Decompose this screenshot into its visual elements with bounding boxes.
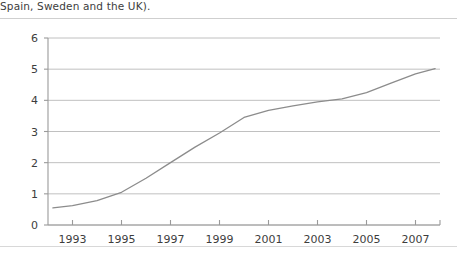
data-series-line <box>53 69 435 208</box>
y-axis-tick-label: 5 <box>31 63 38 76</box>
top-divider-rule <box>0 18 457 19</box>
x-axis-tick-label: 1995 <box>108 233 136 246</box>
x-axis-tick-label: 2005 <box>353 233 381 246</box>
line-chart: 0123456 19931995199719992001200320052007 <box>0 20 457 246</box>
y-axis-tick-label: 3 <box>31 126 38 139</box>
x-axis-tick-label: 1993 <box>59 233 87 246</box>
x-axis-tick-label: 2003 <box>304 233 332 246</box>
y-axis-tick-label: 1 <box>31 188 38 201</box>
x-axis <box>48 220 440 225</box>
y-axis-tick-label: 6 <box>31 32 38 45</box>
x-axis-tick-label: 1999 <box>206 233 234 246</box>
y-axis-tick-labels: 0123456 <box>31 32 38 232</box>
x-axis-tick-labels: 19931995199719992001200320052007 <box>59 233 430 246</box>
y-axis-tick-label: 4 <box>31 94 38 107</box>
chart-svg: 0123456 19931995199719992001200320052007 <box>0 20 457 246</box>
series-line <box>53 69 435 208</box>
x-axis-tick-label: 2007 <box>402 233 430 246</box>
x-axis-tick-label: 1997 <box>157 233 185 246</box>
bottom-divider-rule <box>0 246 457 247</box>
x-axis-tick-label: 2001 <box>255 233 283 246</box>
y-axis-tick-label: 2 <box>31 157 38 170</box>
y-axis-tick-label: 0 <box>31 219 38 232</box>
caption-text: Spain, Sweden and the UK). <box>0 0 150 12</box>
y-axis <box>44 38 48 225</box>
